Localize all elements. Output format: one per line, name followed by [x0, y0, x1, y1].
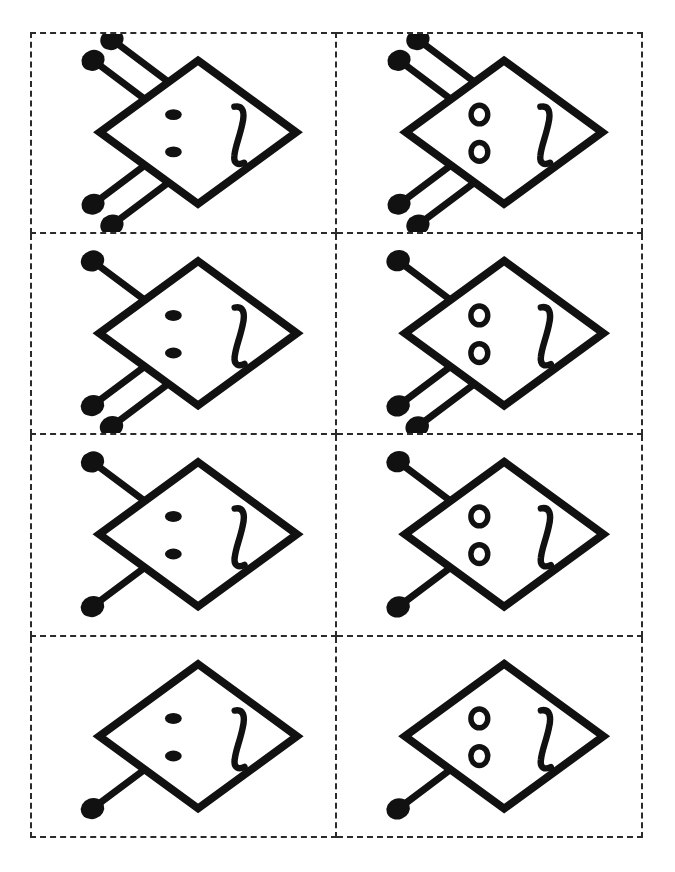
card-grid	[30, 32, 643, 838]
card-cell[interactable]	[337, 234, 644, 436]
eye-filled-2	[165, 147, 182, 158]
eye-filled-1	[165, 713, 182, 724]
creature-figure	[32, 637, 335, 837]
diamond-body	[99, 462, 297, 606]
card-cell[interactable]	[337, 435, 644, 637]
card-cell[interactable]	[337, 637, 644, 839]
diamond-body	[99, 261, 297, 405]
card-cell[interactable]	[30, 637, 337, 839]
creature-figure	[32, 234, 335, 434]
diamond-body	[404, 462, 603, 607]
card-cell[interactable]	[30, 32, 337, 234]
eye-filled-1	[165, 109, 182, 120]
diamond-body	[404, 260, 603, 405]
eye-filled-2	[165, 549, 182, 560]
creature-figure	[337, 435, 642, 635]
diamond-body	[100, 61, 297, 204]
diamond-body	[404, 663, 603, 808]
card-cell[interactable]	[30, 435, 337, 637]
eye-filled-1	[165, 511, 182, 522]
creature-figure	[32, 435, 335, 635]
eye-filled-2	[165, 750, 182, 761]
eye-filled-2	[165, 347, 182, 358]
card-cell[interactable]	[30, 234, 337, 436]
diamond-body	[405, 61, 602, 204]
diamond-body	[99, 664, 297, 808]
card-cell[interactable]	[337, 32, 644, 234]
worksheet-sheet	[0, 0, 675, 872]
faint-header-text	[0, 0, 675, 14]
creature-figure	[32, 34, 335, 232]
creature-figure	[337, 637, 642, 837]
eye-filled-1	[165, 310, 182, 321]
creature-figure	[337, 234, 642, 434]
creature-figure	[337, 34, 642, 232]
